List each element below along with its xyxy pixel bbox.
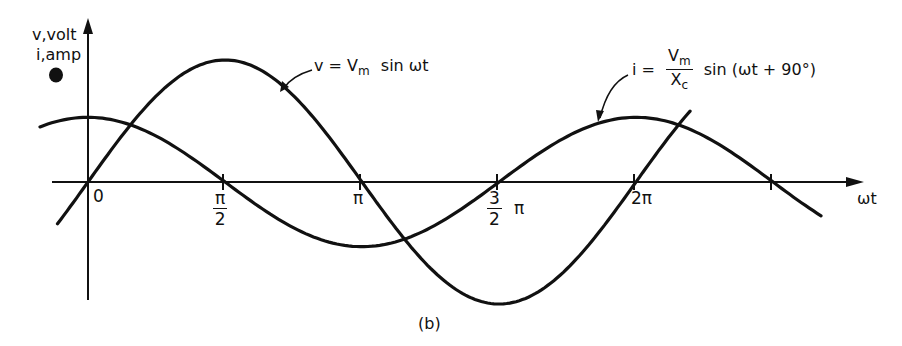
current-leader-arrow-icon <box>596 110 604 122</box>
current-equation: i = Vm Xc sin (ωt + 90°) <box>632 48 816 91</box>
voltage-equation: v = Vm sin ωt <box>314 58 429 77</box>
current-leader-line <box>600 75 628 118</box>
x-axis-label: ωt <box>857 191 877 207</box>
tick-label-3pi-over-2-suffix: π <box>514 200 524 217</box>
voltage-leader-line <box>284 70 312 88</box>
x-axis-arrow-icon <box>846 177 864 187</box>
tick-label-2pi: 2π <box>631 190 652 207</box>
origin-label: 0 <box>93 188 104 205</box>
figure-caption: (b) <box>418 316 441 332</box>
current-equation-fraction: Vm Xc <box>666 48 693 91</box>
y-axis-label-voltage: v,volt <box>32 27 77 43</box>
y-axis-label-current: i,amp <box>36 47 81 63</box>
tick-label-pi-over-2: π 2 <box>213 190 227 228</box>
tick-label-3pi-over-2: 3 2 <box>487 190 502 228</box>
tick-label-pi: π <box>353 190 363 207</box>
y-axis-arrow-icon <box>83 18 93 34</box>
bullet-dot-icon <box>49 68 63 83</box>
